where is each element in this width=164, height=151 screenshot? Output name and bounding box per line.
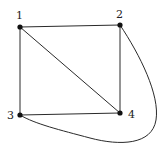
node-4 (117, 110, 122, 115)
node-label-3: 3 (7, 109, 14, 122)
node-3 (17, 112, 22, 117)
node-label-1: 1 (16, 9, 23, 22)
node-label-2: 2 (116, 8, 123, 21)
node-1 (17, 24, 22, 29)
k4-graph-diagram: 1 2 3 4 (0, 0, 164, 151)
edge-3-4 (20, 113, 120, 115)
node-label-4: 4 (128, 108, 135, 121)
edges (20, 25, 157, 142)
node-2 (117, 22, 122, 27)
edge-2-3-curved (20, 25, 157, 142)
edge-1-4 (20, 27, 120, 113)
edge-1-2 (20, 25, 120, 27)
